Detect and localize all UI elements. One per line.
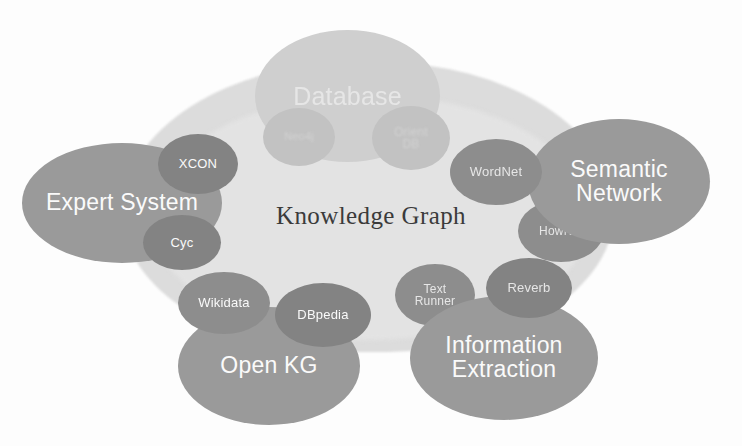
bubble-xcon[interactable]: XCON [158, 134, 238, 194]
bubble-information-extraction[interactable]: Information Extraction [410, 296, 598, 420]
bubble-cyc-label: Cyc [171, 236, 194, 250]
bubble-xcon-label: XCON [179, 157, 217, 171]
bubble-neo4j[interactable]: Neo4j [263, 108, 335, 166]
bubble-wordnet-label: WordNet [470, 165, 522, 179]
bubble-text-runner-label: Text Runner [415, 283, 456, 308]
bubble-orientdb[interactable]: Orient DB [372, 106, 450, 170]
knowledge-graph-diagram: Database Neo4j Orient DB Expert System X… [0, 0, 742, 446]
bubble-dbpedia-label: DBpedia [297, 308, 348, 322]
bubble-wordnet[interactable]: WordNet [450, 139, 542, 205]
bubble-wikidata[interactable]: Wikidata [178, 272, 270, 334]
center-knowledge-graph-label: Knowledge Graph [0, 202, 742, 230]
bubble-semantic-network-label: Semantic Network [570, 158, 667, 206]
bubble-open-kg-label: Open KG [220, 354, 317, 378]
bubble-database-label: Database [293, 83, 402, 109]
bubble-neo4j-label: Neo4j [284, 131, 314, 142]
bubble-orientdb-label: Orient DB [394, 126, 428, 151]
bubble-wikidata-label: Wikidata [198, 296, 249, 310]
bubble-dbpedia[interactable]: DBpedia [275, 283, 371, 347]
bubble-reverb[interactable]: Reverb [486, 258, 572, 318]
bubble-information-extraction-label: Information Extraction [445, 334, 562, 382]
bubble-reverb-label: Reverb [507, 281, 550, 295]
